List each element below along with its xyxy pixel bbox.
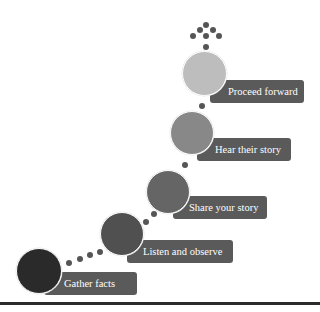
connector-dot [151, 211, 157, 217]
dot [210, 27, 216, 33]
dot [203, 44, 209, 50]
connector-dot [182, 162, 188, 168]
connector-dot [77, 256, 83, 262]
step-circle [100, 212, 144, 256]
step-circle [170, 111, 214, 155]
dot [203, 22, 209, 28]
connector-dot [199, 103, 205, 109]
connector-dot [87, 252, 93, 258]
dot [203, 33, 209, 39]
step-circle [182, 51, 227, 96]
step-circle [16, 248, 62, 294]
dot [197, 27, 203, 33]
step-label: Listen and observe [127, 240, 233, 263]
baseline-divider [0, 302, 320, 305]
connector-dot [143, 219, 149, 225]
dot [190, 33, 196, 39]
step-circle [146, 170, 190, 214]
connector-dot [66, 260, 72, 266]
dot [216, 33, 222, 39]
connector-dot [97, 249, 103, 255]
